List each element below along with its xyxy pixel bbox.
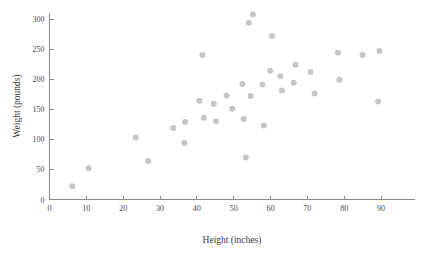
x-tick-label: 10 bbox=[82, 204, 90, 213]
data-point bbox=[224, 92, 230, 98]
y-tick-label: 0 bbox=[41, 196, 45, 205]
x-tick-label: 30 bbox=[156, 204, 164, 213]
y-axis: 050100150200250300 bbox=[33, 13, 54, 205]
y-axis-title: Weight (pounds) bbox=[12, 74, 23, 137]
scatter-plot-figure: 050100150200250300 0102030405060708090 H… bbox=[0, 0, 429, 253]
data-point bbox=[312, 91, 318, 97]
x-tick-label: 90 bbox=[377, 204, 385, 213]
data-point bbox=[201, 115, 207, 121]
y-tick-label: 50 bbox=[37, 165, 45, 174]
data-point bbox=[293, 62, 299, 68]
data-point bbox=[170, 125, 176, 131]
data-point bbox=[240, 81, 246, 87]
data-point bbox=[259, 82, 265, 88]
y-axis-ticks: 050100150200250300 bbox=[33, 15, 54, 204]
data-point bbox=[360, 52, 366, 58]
y-tick-label: 250 bbox=[33, 45, 45, 54]
data-point bbox=[336, 77, 342, 83]
y-tick-label: 300 bbox=[33, 15, 45, 24]
data-point bbox=[229, 106, 235, 112]
x-axis-ticks: 0102030405060708090 bbox=[48, 196, 386, 213]
x-axis-title: Height (inches) bbox=[203, 235, 262, 246]
x-tick-label: 80 bbox=[340, 204, 348, 213]
data-point bbox=[145, 158, 151, 164]
data-point bbox=[246, 20, 252, 26]
y-tick-label: 100 bbox=[33, 135, 45, 144]
data-point bbox=[243, 154, 249, 160]
data-point bbox=[181, 140, 187, 146]
data-point bbox=[69, 183, 75, 189]
data-point bbox=[211, 101, 217, 107]
x-tick-label: 40 bbox=[193, 204, 201, 213]
data-point bbox=[196, 98, 202, 104]
data-point bbox=[375, 98, 381, 104]
y-tick-label: 150 bbox=[33, 105, 45, 114]
data-point bbox=[248, 93, 254, 99]
data-point bbox=[335, 50, 341, 56]
data-point bbox=[241, 116, 247, 122]
x-tick-label: 50 bbox=[230, 204, 238, 213]
x-tick-label: 60 bbox=[267, 204, 275, 213]
data-point bbox=[86, 165, 92, 171]
data-point bbox=[267, 68, 273, 74]
y-tick-label: 200 bbox=[33, 75, 45, 84]
data-point bbox=[279, 88, 285, 94]
x-tick-label: 20 bbox=[119, 204, 127, 213]
data-point bbox=[182, 119, 188, 125]
x-axis: 0102030405060708090 bbox=[48, 196, 416, 213]
data-point bbox=[377, 48, 383, 54]
data-point bbox=[250, 11, 256, 17]
data-point bbox=[277, 73, 283, 79]
x-tick-label: 0 bbox=[48, 204, 52, 213]
data-point bbox=[133, 135, 139, 141]
data-point bbox=[199, 52, 205, 58]
data-point bbox=[308, 69, 314, 75]
data-points bbox=[69, 11, 382, 189]
x-tick-label: 70 bbox=[303, 204, 311, 213]
data-point bbox=[213, 118, 219, 124]
data-point bbox=[269, 33, 275, 39]
data-point bbox=[261, 123, 267, 129]
data-point bbox=[291, 80, 297, 86]
